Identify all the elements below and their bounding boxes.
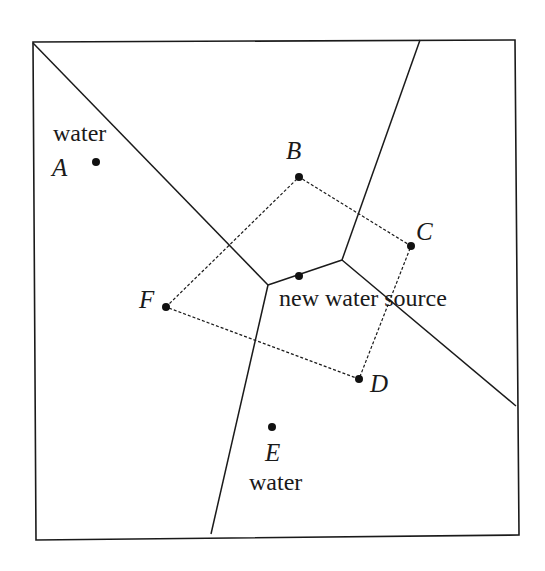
label-b: B <box>286 137 301 164</box>
label-c: C <box>416 218 433 245</box>
label-e: E <box>264 439 280 466</box>
voronoi-diagram: water A B C D E water F new water source <box>0 0 545 571</box>
point-e <box>268 423 276 431</box>
point-new-source <box>295 272 303 280</box>
point-c <box>407 242 415 250</box>
point-b <box>295 173 303 181</box>
caption-e-water: water <box>249 469 302 495</box>
label-f: F <box>138 286 155 313</box>
point-f <box>162 303 170 311</box>
point-d <box>355 375 363 383</box>
boundary-a-top-left <box>33 43 268 285</box>
point-a <box>92 158 100 166</box>
caption-a-water: water <box>53 120 106 146</box>
label-d: D <box>369 370 388 397</box>
labels: water A B C D E water F new water source <box>50 120 447 495</box>
label-new-water-source: new water source <box>279 285 447 311</box>
boundary-right <box>342 260 516 406</box>
label-a: A <box>50 154 68 181</box>
boundary-new-source-segment <box>268 260 342 285</box>
boundary-bottom <box>211 285 268 534</box>
